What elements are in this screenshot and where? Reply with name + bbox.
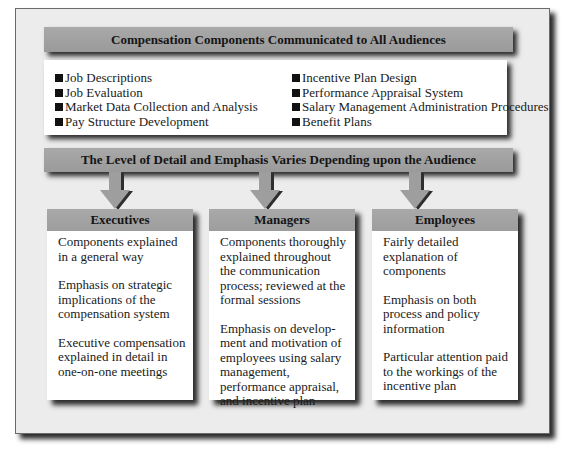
square-bullet-icon [55,103,63,111]
managers-point: Components thoroughly explained througho… [220,235,349,308]
managers-point: Emphasis on develop-ment and motivation … [220,322,349,409]
all-audiences-banner: Compensation Components Communicated to … [44,27,513,52]
executives-heading: Executives [47,209,193,231]
square-bullet-icon [292,89,300,97]
detail-varies-banner: The Level of Detail and Emphasis Varies … [44,148,513,172]
managers-body: Components thoroughly explained througho… [209,231,355,409]
down-arrow-icon [97,172,133,210]
square-bullet-icon [292,74,300,82]
executives-body: Components explained in a general way Em… [47,231,193,379]
square-bullet-icon [55,89,63,97]
executives-point: Emphasis on strategic implications of th… [58,278,187,322]
managers-box: Managers Components thoroughly explained… [209,209,355,400]
list-item: Incentive Plan Design [292,71,549,86]
employees-body: Fairly detailed explanation of component… [372,231,518,394]
executives-point: Components explained in a general way [58,235,187,264]
list-item: Performance Appraisal System [292,86,549,101]
list-item: Pay Structure Development [55,115,258,130]
executives-box: Executives Components explained in a gen… [47,209,193,400]
square-bullet-icon [55,118,63,126]
employees-heading: Employees [372,209,518,231]
employees-point: Emphasis on both process and policy info… [383,293,512,337]
square-bullet-icon [55,74,63,82]
list-item: Market Data Collection and Analysis [55,100,258,115]
square-bullet-icon [292,118,300,126]
employees-point: Particular attention paid to the working… [383,350,512,394]
all-audiences-title: Compensation Components Communicated to … [111,27,446,52]
list-item: Benefit Plans [292,115,549,130]
components-list-box: Job Descriptions Job Evaluation Market D… [44,60,507,135]
list-item: Job Descriptions [55,71,258,86]
detail-varies-title: The Level of Detail and Emphasis Varies … [81,148,476,172]
square-bullet-icon [292,103,300,111]
managers-heading: Managers [209,209,355,231]
employees-box: Employees Fairly detailed explanation of… [372,209,518,400]
components-list-right: Incentive Plan Design Performance Apprai… [292,71,549,129]
components-list-left: Job Descriptions Job Evaluation Market D… [55,71,258,129]
employees-point: Fairly detailed explanation of component… [383,235,512,279]
list-item: Job Evaluation [55,86,258,101]
list-item: Salary Management Administration Procedu… [292,100,549,115]
executives-point: Executive compensation explained in deta… [58,336,187,380]
down-arrow-icon [247,172,283,210]
down-arrow-icon [397,172,433,210]
